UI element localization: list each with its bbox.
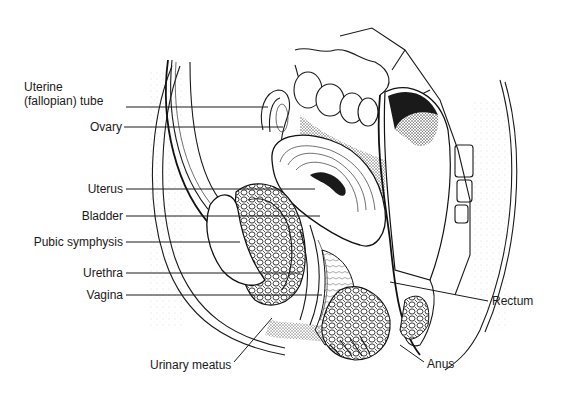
label-ovary: Ovary	[0, 120, 122, 134]
label-anus: Anus	[427, 357, 454, 371]
rectum	[379, 88, 451, 355]
anatomy-illustration	[0, 0, 563, 402]
label-rectum: Rectum	[492, 294, 533, 308]
label-uterus: Uterus	[0, 182, 123, 196]
label-urinary-meatus: Urinary meatus	[150, 358, 231, 372]
label-bladder: Bladder	[0, 209, 123, 223]
label-vagina: Vagina	[0, 288, 123, 302]
label-urethra: Urethra	[0, 266, 123, 280]
perineal-muscles	[322, 287, 390, 360]
label-uterine-tube: Uterine (fallopian) tube	[24, 80, 124, 108]
label-pubic-symphysis: Pubic symphysis	[0, 235, 123, 249]
